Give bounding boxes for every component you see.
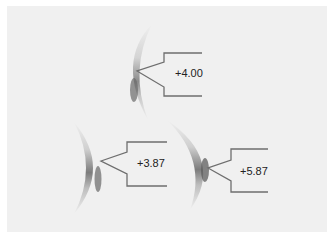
- lens-bottom-right: +5.87: [167, 120, 268, 210]
- lens-diagram: +4.00 +3.87 +5.87: [0, 0, 334, 237]
- lens-top: +4.00: [130, 24, 203, 120]
- lens-top-shape: [133, 24, 152, 120]
- lens-bottom-left-shape: [74, 122, 93, 214]
- lens-bottom-right-shape: [167, 120, 203, 210]
- lens-bottom-left: +3.87: [74, 122, 167, 214]
- lens-bottom-right-shadow: [201, 158, 209, 182]
- lens-top-shadow: [130, 78, 138, 102]
- diagram-svg: +4.00 +3.87 +5.87: [0, 0, 334, 237]
- lens-bottom-left-shadow: [95, 166, 102, 192]
- power-label-bottom-right: +5.87: [240, 165, 268, 177]
- power-label-bottom-left: +3.87: [137, 157, 165, 169]
- power-label-top: +4.00: [175, 67, 203, 79]
